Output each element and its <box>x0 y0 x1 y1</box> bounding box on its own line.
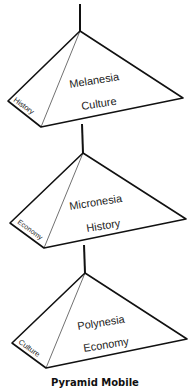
pyramid-melanesia: Melanesia Culture History <box>8 31 183 127</box>
hanging-string-1-2 <box>82 124 83 153</box>
hanging-string-2-3 <box>84 245 85 273</box>
diagram-title: Pyramid Mobile <box>51 377 139 388</box>
pyramid-micronesia: Micronesia History Economy <box>10 153 186 248</box>
pyramid-mobile-diagram: Melanesia Culture History Micronesia His… <box>0 0 190 390</box>
pyramid-polynesia: Polynesia Economy Culture <box>12 273 187 368</box>
